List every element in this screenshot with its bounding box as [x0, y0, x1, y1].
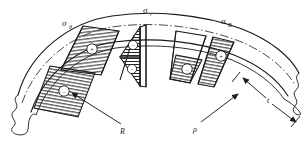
sign-minus-left-lower: − [62, 89, 66, 95]
sign-marker: − [182, 64, 192, 74]
sign-marker: − [128, 40, 137, 49]
label-bending-stress: σ B [221, 16, 232, 28]
sign-marker: + [87, 44, 97, 54]
label-radial-stress: σ r [143, 5, 153, 17]
sigma-theta-symbol: σ [62, 18, 67, 28]
break-line-left [12, 95, 36, 135]
sign-center-upper: − [131, 42, 135, 48]
leader-line-rho [201, 94, 238, 122]
sigma-theta-subscript: θ [69, 24, 72, 30]
sigma-B-subscript: B [228, 22, 232, 28]
dimension-extension-lower [291, 116, 300, 127]
sign-minus-right-inner: − [185, 67, 189, 73]
sigma-r-symbol: σ [143, 5, 148, 15]
sign-plus-right-outer: + [219, 54, 223, 60]
sign-marker: − [127, 64, 136, 73]
label-hoop-stress: σ θ [62, 18, 72, 30]
dimension-line-thickness-lower [272, 104, 296, 122]
sigma-B-symbol: σ [221, 16, 226, 26]
sign-marker: − [59, 86, 69, 96]
curved-beam-stress-diagram: + − − − + − [0, 0, 308, 146]
dimension-extension-upper [232, 72, 240, 82]
sign-plus-left-upper: + [90, 47, 94, 53]
figure-canvas: + − − − + − [0, 0, 308, 146]
sigma-r-subscript: r [150, 11, 153, 17]
radial-stress-wedge-band [140, 25, 146, 87]
sign-center-lower: − [130, 66, 134, 72]
sign-marker: + [216, 51, 226, 61]
radius-rho-label: ρ [192, 125, 197, 134]
radius-R-label: R [119, 127, 125, 136]
thickness-label: t [267, 96, 270, 105]
dimension-line-thickness-upper [243, 78, 266, 98]
